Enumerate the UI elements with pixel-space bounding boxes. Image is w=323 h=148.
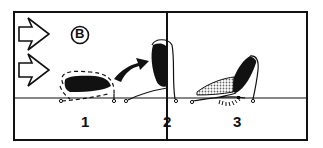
right-arrow-icon (19, 18, 49, 50)
pivot-block (237, 96, 240, 99)
stage3-shape (233, 56, 256, 93)
right-arrow-icon (19, 54, 49, 86)
pivot-point (251, 99, 254, 102)
stage2-shape (152, 44, 168, 87)
stage-number-1: 1 (81, 113, 89, 130)
pivot-point (124, 99, 127, 102)
badge-label: B (75, 26, 84, 41)
stage3-stipple (197, 77, 234, 95)
stage-number-3: 3 (233, 113, 241, 130)
pivot-point (59, 99, 62, 102)
hatch-arc (219, 98, 240, 106)
curved-arrow-icon (114, 58, 149, 82)
stage-number-2: 2 (163, 113, 171, 130)
pivot-point (174, 99, 177, 102)
diagram-panel (0, 0, 323, 148)
stage1-shape (65, 76, 111, 92)
pivot-point (112, 99, 115, 102)
